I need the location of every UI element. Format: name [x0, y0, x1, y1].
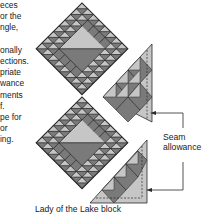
quilt-block-top	[36, 3, 128, 95]
quilt-diagram	[0, 0, 213, 220]
seam-allowance-label: Seam allowance	[163, 132, 201, 152]
seam-allowance-line1: Seam	[163, 132, 201, 142]
quilt-block-bottom	[36, 97, 128, 189]
seam-allowance-line2: allowance	[163, 142, 201, 152]
diagram-caption: Lady of the Lake block	[35, 204, 121, 214]
